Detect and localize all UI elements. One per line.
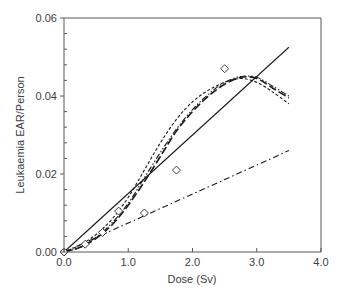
x-tick-label: 0.0 xyxy=(56,256,71,268)
y-tick-label: 0.06 xyxy=(36,12,57,24)
x-tick-label: 4.0 xyxy=(313,256,328,268)
y-ticks: 0.000.020.040.06 xyxy=(36,12,67,258)
x-tick-label: 3.0 xyxy=(249,256,264,268)
chart: 0.000.020.040.06 0.01.02.03.04.0 Dose (S… xyxy=(0,0,345,302)
y-tick-label: 0.02 xyxy=(36,168,57,180)
x-axis-title: Dose (Sv) xyxy=(168,273,217,285)
x-tick-label: 1.0 xyxy=(121,256,136,268)
y-tick-label: 0.00 xyxy=(36,246,57,258)
y-axis-title: Leukaemia EAR/Person xyxy=(14,76,26,193)
y-tick-label: 0.04 xyxy=(36,90,57,102)
x-tick-label: 2.0 xyxy=(185,256,200,268)
